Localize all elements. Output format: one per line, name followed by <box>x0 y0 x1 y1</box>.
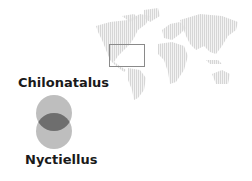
venn-diagram <box>36 95 72 149</box>
venn-label-top: Chilonatalus <box>18 75 109 90</box>
venn-label-bottom: Nyctiellus <box>25 152 97 167</box>
world-map <box>96 8 238 100</box>
